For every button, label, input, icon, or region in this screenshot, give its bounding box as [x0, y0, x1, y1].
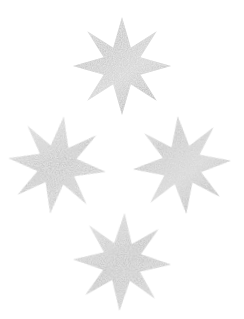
star-right-glyph [129, 112, 235, 218]
star-bottom-glyph [71, 211, 174, 314]
eight-point-star-icon [2, 110, 113, 221]
star-top-glyph [73, 17, 171, 115]
star-bottom [71, 211, 174, 314]
star-left-glyph [2, 110, 113, 221]
star-left [2, 110, 113, 221]
eight-point-star-icon [73, 17, 171, 115]
star-top [73, 17, 171, 115]
image-canvas [0, 0, 244, 319]
eight-point-star-icon [129, 112, 235, 218]
eight-point-star-icon [71, 211, 174, 314]
star-right [129, 112, 235, 218]
